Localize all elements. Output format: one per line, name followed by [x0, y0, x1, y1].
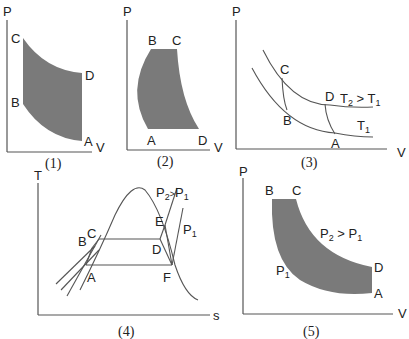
- diagram-4: T s C B A D E F P2>P1 P1 (4): [34, 168, 220, 339]
- p1-label: P1: [183, 222, 197, 239]
- point-e-label: E: [155, 214, 164, 229]
- point-c-label: C: [292, 183, 301, 198]
- point-c-label: C: [280, 62, 289, 77]
- point-a-label: A: [331, 136, 340, 151]
- caption-4: (4): [118, 324, 135, 339]
- point-b-label: B: [148, 33, 157, 48]
- point-a-label: A: [147, 133, 156, 148]
- x-axis-label: V: [398, 306, 407, 321]
- point-a-label: A: [87, 270, 96, 285]
- caption-5: (5): [303, 324, 320, 339]
- caption-1: (1): [45, 156, 62, 172]
- point-d-label: D: [198, 133, 207, 148]
- x-axis-label: s: [213, 308, 220, 323]
- point-d-label: D: [325, 89, 334, 104]
- y-axis-label: T: [34, 168, 42, 183]
- shaded-cycle-area: [137, 49, 199, 129]
- shaded-cycle-area: [23, 38, 82, 141]
- diagram-3: P V C B D A T2 > T1 T1 (3): [232, 4, 406, 171]
- diagram-2: P V B C A D (2): [123, 4, 223, 170]
- point-b-label: B: [265, 183, 274, 198]
- adiabat-da-curve: [325, 104, 335, 134]
- y-axis-label: P: [123, 4, 132, 19]
- p1-isobar-right: [172, 208, 183, 265]
- p2-gt-p1-label: P2>P1: [156, 185, 189, 202]
- point-a-label: A: [84, 134, 93, 149]
- saturation-dome-curve: [80, 188, 198, 300]
- diagram-1: P V C B D A (1): [3, 4, 105, 172]
- p2-gt-p1-label: P2 > P1: [320, 226, 362, 243]
- point-c-label: C: [172, 33, 181, 48]
- point-b-label: B: [78, 234, 87, 249]
- t1-label: T1: [357, 118, 370, 135]
- point-b-label: B: [11, 95, 20, 110]
- caption-3: (3): [301, 155, 318, 171]
- line-ef: [165, 225, 172, 265]
- point-b-label: B: [283, 113, 292, 128]
- point-d-label: D: [374, 260, 383, 275]
- point-d-label: D: [152, 242, 161, 257]
- y-axis-label: P: [232, 4, 241, 19]
- diagram-canvas: P V C B D A (1) P V B C A D (2) P V C B …: [0, 0, 409, 339]
- point-f-label: F: [163, 270, 171, 285]
- point-c-label: C: [11, 31, 20, 46]
- x-axis-label: V: [96, 140, 105, 155]
- x-axis-label: V: [214, 140, 223, 155]
- t2-gt-t1-label: T2 > T1: [340, 91, 381, 108]
- diagram-5: P V B C D A P2 > P1 P1 (5): [239, 164, 407, 339]
- y-axis-label: P: [3, 4, 12, 19]
- point-a-label: A: [374, 286, 383, 301]
- point-d-label: D: [85, 68, 94, 83]
- y-axis-label: P: [239, 164, 248, 179]
- point-c-label: C: [87, 226, 96, 241]
- x-axis-label: V: [397, 145, 406, 160]
- caption-2: (2): [157, 154, 174, 170]
